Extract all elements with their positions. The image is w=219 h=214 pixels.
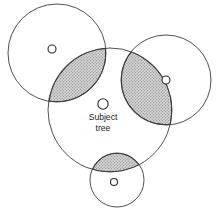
subject-tree-label-line1: Subject: [89, 112, 118, 122]
tree-marker-top-right: [162, 76, 170, 84]
competition-circles-figure: Subject tree: [0, 0, 219, 214]
tree-marker-subject: [98, 99, 108, 109]
tree-marker-bottom: [111, 179, 118, 186]
diagram-canvas: Subject tree: [0, 0, 219, 214]
figure-background: [0, 0, 219, 214]
tree-marker-top-left: [48, 45, 56, 53]
subject-tree-label-line2: tree: [96, 123, 111, 133]
